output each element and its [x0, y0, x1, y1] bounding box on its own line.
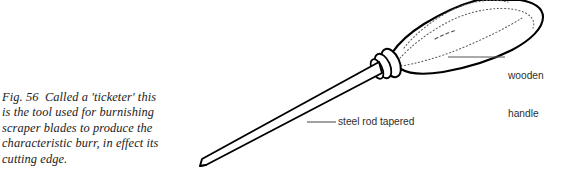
callout-label-steel-rod: steel rod tapered: [338, 116, 414, 129]
figure-caption: Fig. 56 Called a 'ticketer' this is the …: [2, 90, 192, 167]
caption-line-4: characteristic burr, in effect its: [2, 136, 192, 151]
callout-wooden-handle-line-1: wooden: [508, 70, 544, 83]
caption-line-2: is the tool used for burnishing: [2, 105, 192, 120]
callout-wooden-handle-line-2: handle: [508, 108, 544, 121]
steel-rod-tip-cut: [200, 165, 206, 166]
steel-rod-group: [200, 62, 382, 166]
caption-line-5: cutting edge.: [2, 152, 192, 167]
caption-line-1: Fig. 56 Called a 'ticketer' this: [2, 90, 192, 105]
caption-line-3: scraper blades to produce the: [2, 121, 192, 136]
figure-page: Fig. 56 Called a 'ticketer' this is the …: [0, 0, 568, 187]
steel-rod-body: [200, 62, 382, 166]
callout-label-wooden-handle: wooden handle: [508, 45, 544, 146]
